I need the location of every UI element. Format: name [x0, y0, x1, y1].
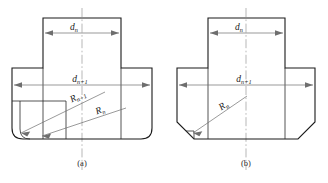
- label-dn1-a: dn+1: [72, 74, 87, 85]
- figure-root: dn dn+1 Rn+1 Rn (a) dn: [0, 0, 328, 183]
- arrowhead-dn-right-a: [111, 30, 119, 35]
- caption-a: (a): [77, 158, 87, 168]
- arrowhead-dn1-right-b: [305, 82, 313, 87]
- leader-rn-a: [42, 108, 126, 136]
- panel-a: dn dn+1 Rn+1 Rn (a): [12, 8, 152, 170]
- leader-rn1-a: [21, 92, 105, 133]
- arrowhead-dn-left-b: [210, 30, 218, 35]
- label-rn-a: Rn: [93, 104, 106, 118]
- label-dn-b: dn: [235, 22, 243, 33]
- label-dn1-b: dn+1: [236, 74, 251, 85]
- arrowhead-dn1-right-a: [142, 82, 150, 87]
- arrowhead-dn-right-b: [275, 30, 283, 35]
- label-rn-b: Rn: [216, 99, 231, 114]
- diagram-canvas: dn dn+1 Rn+1 Rn (a) dn: [0, 0, 328, 183]
- caption-b: (b): [241, 158, 251, 168]
- label-rn1-a: Rn+1: [67, 88, 88, 106]
- arrowhead-dn1-left-a: [14, 82, 22, 87]
- inner-chamfer-b: [186, 131, 194, 139]
- arrowhead-dn1-left-b: [179, 82, 187, 87]
- panel-b: dn dn+1 Rn (b): [177, 8, 315, 170]
- label-dn-a: dn: [70, 22, 78, 33]
- arrowhead-dn-left-a: [45, 30, 53, 35]
